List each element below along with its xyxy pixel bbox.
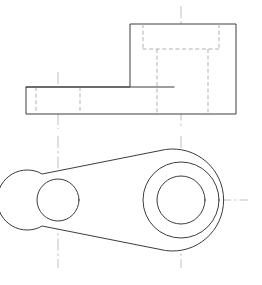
front-elevation-view — [26, 6, 236, 129]
drawing-svg — [0, 0, 262, 285]
technical-drawing-canvas — [0, 0, 262, 285]
plan-view-body-outline — [0, 149, 224, 251]
front-view-outline — [26, 24, 236, 114]
plan-view — [0, 136, 248, 268]
